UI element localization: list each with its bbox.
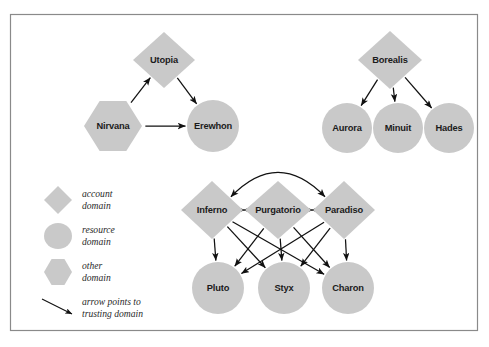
legend-resource: resourcedomain (44, 223, 116, 249)
node-erewhon[interactable]: Erewhon (187, 100, 239, 152)
node-label-pluto: Pluto (207, 283, 230, 293)
node-label-utopia: Utopia (150, 55, 179, 65)
edge-borealis-to-hades (405, 77, 432, 108)
node-paradiso[interactable]: Paradiso (313, 181, 375, 239)
node-label-hades: Hades (435, 123, 462, 133)
legend-account-line2: domain (82, 200, 111, 211)
node-styx[interactable]: Styx (258, 262, 310, 314)
edge-borealis-to-aurora (361, 80, 377, 106)
node-inferno[interactable]: Inferno (181, 181, 243, 239)
legend-account: accountdomain (44, 186, 113, 214)
node-aurora[interactable]: Aurora (322, 103, 372, 153)
node-label-erewhon: Erewhon (194, 121, 233, 131)
legend-other: otherdomain (44, 259, 111, 285)
node-nirvana[interactable]: Nirvana (84, 101, 142, 151)
edge-nirvana-to-utopia (131, 78, 150, 103)
legend-layer: accountdomainresourcedomainotherdomainar… (42, 186, 143, 319)
edge-purgatorio-to-charon (294, 227, 330, 267)
legend-arrow-icon (42, 299, 72, 314)
node-pluto[interactable]: Pluto (192, 262, 244, 314)
node-purgatorio[interactable]: Purgatorio (245, 181, 311, 239)
node-label-nirvana: Nirvana (96, 121, 130, 131)
node-label-paradiso: Paradiso (325, 205, 364, 215)
node-label-purgatorio: Purgatorio (255, 205, 301, 215)
node-label-borealis: Borealis (372, 55, 408, 65)
node-hades[interactable]: Hades (424, 103, 474, 153)
edge-inferno-to-pluto (214, 239, 216, 261)
legend-arrow-line1: arrow points to (82, 296, 141, 307)
legend-diamond-icon (44, 186, 72, 214)
legend-account-line1: account (82, 188, 113, 199)
node-borealis[interactable]: Borealis (358, 31, 422, 89)
legend-other-line2: domain (82, 272, 111, 283)
node-label-charon: Charon (332, 283, 364, 293)
legend-resource-line2: domain (82, 236, 111, 247)
domain-trust-diagram: UtopiaNirvanaErewhonBorealisAuroraMinuit… (0, 0, 489, 347)
node-label-minuit: Minuit (385, 123, 412, 133)
node-label-aurora: Aurora (332, 123, 363, 133)
node-charon[interactable]: Charon (322, 262, 374, 314)
node-label-styx: Styx (274, 283, 294, 293)
edge-utopia-to-erewhon (177, 78, 196, 104)
node-utopia[interactable]: Utopia (133, 32, 195, 88)
legend-other-line1: other (82, 260, 103, 271)
node-label-inferno: Inferno (197, 205, 228, 215)
diagram-canvas: UtopiaNirvanaErewhonBorealisAuroraMinuit… (0, 0, 489, 347)
edge-paradiso-to-charon (345, 239, 346, 260)
legend-hexagon-icon (44, 259, 72, 285)
legend-circle-icon (44, 223, 72, 249)
node-minuit[interactable]: Minuit (373, 103, 423, 153)
edge-borealis-to-minuit (393, 88, 395, 102)
legend-arrow: arrow points totrusting domain (42, 296, 143, 319)
legend-resource-line1: resource (82, 224, 116, 235)
legend-arrow-line2: trusting domain (82, 308, 143, 319)
